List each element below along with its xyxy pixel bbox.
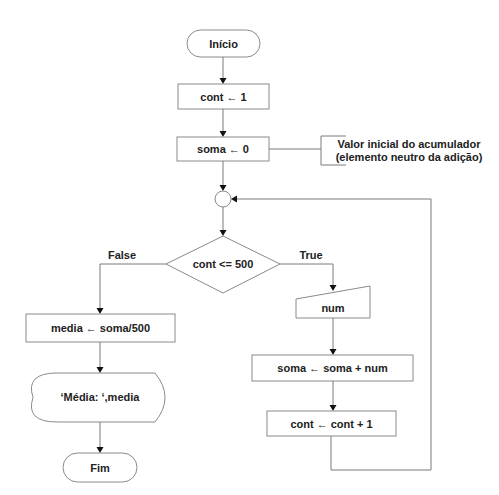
arrow-head-icon	[231, 196, 237, 203]
flowchart-canvas: Início cont ← 1 soma ← 0 Valor inicial d…	[0, 0, 499, 495]
arrow-head-icon	[330, 349, 337, 355]
calc-media-process: media ← soma/500	[26, 314, 175, 342]
false-branch-label: False	[108, 249, 136, 261]
annotation-line-2: (elemento neutro da adição)	[336, 151, 483, 163]
start-terminator: Início	[187, 30, 260, 57]
decision-diamond: cont <= 500	[166, 236, 280, 293]
annotation-comment: Valor inicial do acumulador (elemento ne…	[269, 136, 483, 165]
end-label: Fim	[90, 462, 110, 474]
acc-soma-process: soma ← soma + num	[252, 355, 413, 381]
true-flow-line	[280, 264, 333, 285]
arrow-head-icon	[97, 367, 104, 373]
inc-cont-label: cont ← cont + 1	[290, 418, 372, 430]
display-label: ‘Média: ‘,media	[61, 391, 141, 403]
arrow-head-icon	[220, 230, 227, 236]
arrow-head-icon	[220, 78, 227, 84]
init-cont-label: cont ← 1	[200, 91, 246, 103]
init-soma-process: soma ← 0	[177, 137, 269, 161]
annotation-line-1: Valor inicial do acumulador	[337, 138, 481, 150]
decision-label: cont <= 500	[193, 258, 254, 270]
init-cont-process: cont ← 1	[178, 84, 269, 109]
loop-connector	[215, 191, 231, 207]
arrow-head-icon	[97, 308, 104, 314]
arrow-head-icon	[220, 131, 227, 137]
init-soma-label: soma ← 0	[197, 143, 249, 155]
acc-soma-label: soma ← soma + num	[277, 362, 388, 374]
arrow-head-icon	[220, 185, 227, 191]
end-terminator: Fim	[63, 453, 137, 482]
start-label: Início	[209, 38, 238, 50]
calc-media-label: media ← soma/500	[51, 322, 150, 334]
display-output: ‘Média: ‘,media	[31, 373, 165, 422]
arrow-head-icon	[330, 405, 337, 411]
false-flow-line	[100, 264, 166, 309]
input-num-label: num	[321, 302, 344, 314]
inc-cont-process: cont ← cont + 1	[267, 411, 396, 436]
arrow-head-icon	[97, 447, 104, 453]
arrow-head-icon	[330, 285, 337, 291]
true-branch-label: True	[299, 249, 322, 261]
